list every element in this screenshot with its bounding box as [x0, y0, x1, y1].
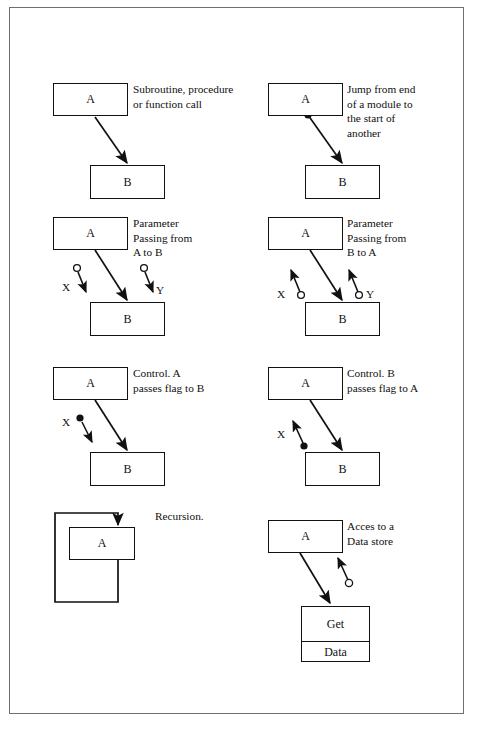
recursion-caption: Recursion.: [155, 509, 275, 524]
box-label: B: [123, 175, 131, 190]
jump-caption: Jump from end of a module to the start o…: [347, 82, 465, 140]
data-store-caption: Acces to a Data store: [347, 519, 465, 548]
control-a-to-b-label-x: X: [62, 416, 70, 428]
open-circle-icon: [141, 265, 148, 272]
figure-canvas: A B Subroutine, procedure or function ca…: [0, 0, 477, 733]
subroutine-call-caption: Subroutine, procedure or function call: [133, 82, 273, 111]
box-label: A: [301, 529, 310, 544]
parameter-a-to-b-box-a[interactable]: A: [53, 217, 128, 250]
box-label: B: [338, 462, 346, 477]
parameter-b-to-a-box-b[interactable]: B: [305, 302, 380, 336]
box-label: A: [86, 92, 95, 107]
control-b-to-a-label-x: X: [277, 428, 285, 440]
box-label: B: [338, 175, 346, 190]
control-b-to-a-box-a[interactable]: A: [268, 367, 343, 400]
connector-jump: [304, 111, 342, 163]
parameter-a-to-b-box-b[interactable]: B: [90, 302, 165, 336]
open-circle-icon: [356, 292, 363, 299]
box-label: A: [301, 92, 310, 107]
parameter-a-to-b-caption: Parameter Passing from A to B: [133, 216, 263, 260]
box-label: A: [86, 226, 95, 241]
box-label: A: [301, 226, 310, 241]
parameter-b-to-a-caption: Parameter Passing from B to A: [347, 216, 465, 260]
open-circle-icon: [298, 292, 305, 299]
connector-control-a-to-b: [76, 400, 127, 450]
box-label: B: [123, 312, 131, 327]
jump-box-a[interactable]: A: [268, 83, 343, 116]
data-store-get-label: Get: [327, 617, 344, 632]
box-label: A: [86, 376, 95, 391]
open-circle-icon: [74, 265, 81, 272]
box-label: A: [301, 376, 310, 391]
control-b-to-a-caption: Control. B passes flag to A: [347, 366, 465, 395]
subroutine-call-box-b[interactable]: B: [90, 165, 165, 199]
parameter-b-to-a-label-y: Y: [366, 288, 374, 300]
filled-dot-icon: [300, 442, 307, 449]
filled-dot-icon: [76, 414, 83, 421]
subroutine-call-box-a[interactable]: A: [53, 83, 128, 116]
data-store-get-cell: Get: [302, 607, 369, 642]
parameter-b-to-a-box-a[interactable]: A: [268, 217, 343, 250]
control-b-to-a-box-b[interactable]: B: [305, 452, 380, 486]
data-store-data-label: Data: [324, 645, 347, 660]
jump-box-b[interactable]: B: [305, 165, 380, 199]
recursion-box-a[interactable]: A: [69, 527, 135, 560]
parameter-a-to-b-label-x: X: [62, 281, 70, 293]
parameter-a-to-b-label-y: Y: [156, 284, 164, 296]
connector-data-store: [300, 553, 353, 603]
data-store-box[interactable]: Get Data: [301, 606, 370, 662]
connector-control-b-to-a: [293, 400, 342, 450]
data-store-data-cell: Data: [302, 642, 369, 662]
data-store-box-a[interactable]: A: [268, 520, 343, 553]
open-circle-icon: [345, 579, 352, 586]
box-label: A: [98, 536, 107, 551]
parameter-b-to-a-label-x: X: [277, 288, 285, 300]
control-a-to-b-box-b[interactable]: B: [90, 452, 165, 486]
control-a-to-b-box-a[interactable]: A: [53, 367, 128, 400]
control-a-to-b-caption: Control. A passes flag to B: [133, 366, 273, 395]
box-label: B: [338, 312, 346, 327]
box-label: B: [123, 462, 131, 477]
connector-subroutine-call: [95, 117, 127, 163]
